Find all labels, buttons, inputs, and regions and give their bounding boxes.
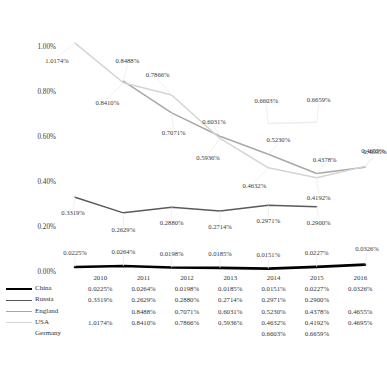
table-year-header: 2010 [79,272,122,283]
data-label-leader [172,113,174,129]
data-label: 0.2971% [257,217,281,225]
data-label-leader [123,65,127,81]
table-cell [122,328,165,339]
table-cell: 0.0227% [295,283,338,294]
series-line-germany [268,122,316,123]
table-cell: 0.5230% [252,306,295,317]
table-cell: 0.4655% [339,306,382,317]
data-label: 0.6659% [307,96,331,104]
table-cell [339,294,382,305]
table-cell: 0.0151% [252,283,295,294]
table-year-header: 2016 [339,272,382,283]
table-cell [165,328,208,339]
table-cell: 0.7071% [165,306,208,317]
data-label-leader [266,105,268,123]
data-label: 0.2880% [160,219,184,227]
table-cell: 0.6031% [209,306,252,317]
table-cell: 0.8488% [122,306,165,317]
table-cell: 1.0174% [79,317,122,328]
data-label: 0.2629% [112,226,136,234]
table-header-row: 2010201120122013201420152016 [0,272,382,283]
legend-swatch-icon [6,288,32,290]
data-label: 0.5936% [196,154,220,162]
data-label: 0.6031% [202,118,226,126]
data-table-area: 2010201120122013201420152016China0.0225%… [0,272,382,360]
table-cell: 0.4192% [295,317,338,328]
data-label: 0.4695% [363,148,387,156]
data-label-leader [254,168,268,182]
legend-label: China [35,283,52,294]
table-cell: 0.4378% [295,306,338,317]
table-cell: 0.0326% [339,283,382,294]
table-cell: 0.2971% [252,294,295,305]
data-label: 1.0174% [45,57,69,65]
table-cell: 0.8410% [122,317,165,328]
data-table: 2010201120122013201420152016China0.0225%… [0,272,382,339]
table-cell [79,306,122,317]
legend-swatch-icon [6,311,32,312]
table-cell: 0.0198% [165,283,208,294]
table-cell: 0.6659% [295,328,338,339]
data-label-leader [268,144,278,154]
legend-swatch-icon [6,333,32,334]
table-year-header: 2014 [252,272,295,283]
data-label-leader [365,253,367,265]
table-cell: 0.4695% [339,317,382,328]
series-line-russia [75,197,317,213]
data-label: 0.0198% [160,250,184,258]
legend-item-usa[interactable]: USA [0,317,79,328]
data-label: 0.5230% [267,136,291,144]
data-label: 0.2900% [307,219,331,227]
data-label: 0.8410% [96,99,120,107]
data-label: 0.6603% [255,97,279,105]
table-cell: 0.5936% [209,317,252,328]
data-label-leader [317,104,319,122]
data-label-leader [317,207,319,219]
legend-label: USA [35,317,49,328]
table-cell: 0.0185% [209,283,252,294]
legend-item-germany[interactable]: Germany [0,328,79,339]
table-cell [79,328,122,339]
data-label: 0.0227% [305,249,329,257]
legend-swatch-icon [6,300,32,301]
table-year-header: 2012 [165,272,208,283]
table-cell: 0.7866% [165,317,208,328]
table-row: Russia0.3319%0.2629%0.2880%0.2714%0.2971… [0,294,382,305]
data-label-leader [107,83,123,99]
data-label: 0.0225% [63,249,87,257]
data-label: 0.7071% [162,129,186,137]
table-year-header: 2011 [122,272,165,283]
legend-label: Russia [35,294,54,305]
data-label: 0.4632% [243,182,267,190]
table-cell: 0.0264% [122,283,165,294]
legend-item-england[interactable]: England [0,306,79,317]
table-row: Germany0.6603%0.6659% [0,328,382,339]
table-cell: 0.2900% [295,294,338,305]
table-year-header: 2013 [209,272,252,283]
table-cell: 0.2880% [165,294,208,305]
table-row: England0.8488%0.7071%0.6031%0.5230%0.437… [0,306,382,317]
data-label: 0.0151% [257,251,281,259]
legend-label: Germany [35,328,61,339]
table-cell: 0.0225% [79,283,122,294]
data-label-leader [57,43,75,57]
table-cell: 0.2629% [122,294,165,305]
table-cell [339,328,382,339]
table-cell: 0.3319% [79,294,122,305]
data-label: 0.4192% [307,194,331,202]
data-label: 0.4378% [313,156,337,164]
legend-swatch-icon [6,322,32,323]
table-corner-cell [0,272,79,283]
table-row: China0.0225%0.0264%0.0198%0.0185%0.0151%… [0,283,382,294]
table-cell: 0.4632% [252,317,295,328]
data-label-leader [208,138,220,154]
legend-item-russia[interactable]: Russia [0,294,79,305]
table-cell: 0.2714% [209,294,252,305]
data-label: 0.0264% [112,248,136,256]
data-label: 0.2714% [208,223,232,231]
data-label-leader [317,178,319,194]
table-cell [209,328,252,339]
legend-item-china[interactable]: China [0,283,79,294]
data-label: 0.3319% [61,209,85,217]
